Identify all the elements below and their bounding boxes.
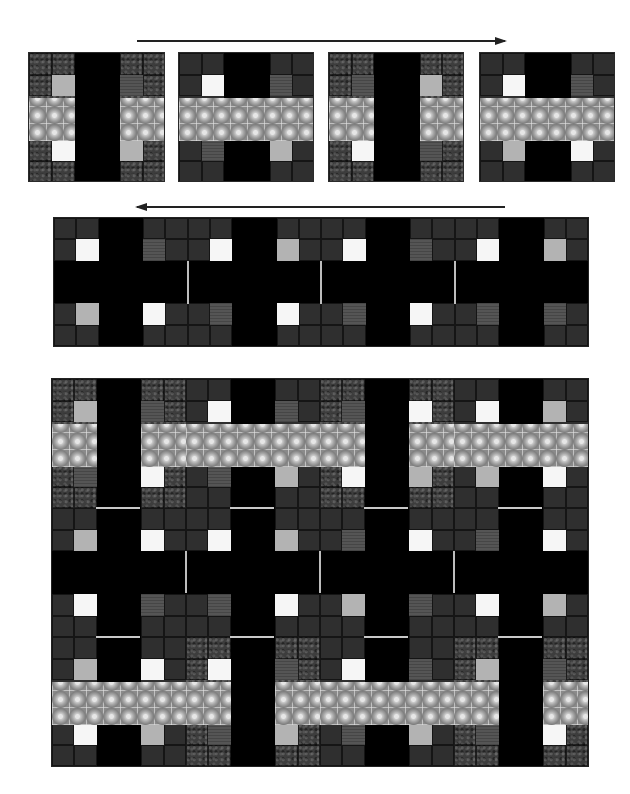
black-bar-top (231, 379, 276, 424)
band-left (454, 682, 499, 725)
corner-patch (188, 218, 210, 239)
corner-patch (454, 723, 476, 745)
arrow-left-icon (137, 206, 505, 208)
corner-patch (442, 75, 464, 97)
corner-patch (164, 508, 186, 530)
corner-patch (165, 218, 187, 239)
accent-square-white (409, 401, 431, 423)
accent-square-mid (141, 594, 163, 616)
accent-square-white (543, 465, 565, 487)
corner-patch (186, 487, 208, 509)
corner-patch (143, 140, 165, 162)
seam-line (454, 261, 456, 304)
corner-patch (320, 465, 342, 487)
sashing-strip (53, 217, 589, 347)
corner-patch (186, 745, 208, 767)
corner-patch (566, 218, 588, 239)
corner-patch (566, 303, 588, 324)
corner-patch (164, 379, 186, 401)
accent-square-white (141, 465, 163, 487)
corner-patch (432, 303, 454, 324)
corner-patch (410, 218, 432, 239)
corner-patch (208, 379, 230, 401)
corner-patch (342, 487, 364, 509)
corner-patch (186, 508, 208, 530)
corner-patch (544, 218, 566, 239)
corner-patch (52, 401, 74, 423)
corner-patch (74, 745, 96, 767)
black-bar-top (97, 637, 142, 682)
corner-patch (352, 53, 375, 75)
black-bar-bottom (224, 141, 269, 182)
corner-patch (543, 379, 565, 401)
corner-patch (298, 487, 320, 509)
quilt-block-type-a (328, 52, 464, 182)
corner-patch (52, 659, 74, 681)
corner-patch (164, 530, 186, 552)
accent-square-white (208, 530, 230, 552)
accent-square-mid (544, 303, 566, 324)
corner-patch (141, 637, 163, 659)
corner-patch (210, 218, 232, 239)
corner-patch (165, 239, 187, 260)
corner-patch (188, 239, 210, 260)
seam-line (96, 636, 140, 638)
corner-patch (321, 325, 343, 346)
corner-patch (543, 637, 565, 659)
corner-patch (52, 508, 74, 530)
accent-square-white (410, 303, 432, 324)
quilt-block-type-a (52, 379, 186, 508)
quilt-block-type-c (320, 508, 454, 637)
corner-patch (188, 303, 210, 324)
band-right (120, 98, 165, 142)
accent-square-white (74, 594, 96, 616)
accent-square-mid (141, 401, 163, 423)
accent-square-light (476, 465, 498, 487)
corner-patch (76, 325, 98, 346)
corner-patch (320, 401, 342, 423)
corner-patch (29, 53, 52, 75)
corner-patch (454, 508, 476, 530)
corner-patch (321, 218, 343, 239)
corner-patch (543, 745, 565, 767)
quilt-block-type-b (320, 637, 454, 766)
accent-square-white (141, 659, 163, 681)
black-bar-vertical (97, 379, 142, 508)
accent-square-white (52, 140, 75, 162)
corner-patch (164, 723, 186, 745)
quilt-block-type-b (186, 379, 320, 508)
corner-patch (143, 75, 165, 97)
accent-square-white (275, 594, 297, 616)
corner-patch (566, 508, 588, 530)
corner-patch (120, 53, 143, 75)
quilt-block-type-a (28, 52, 165, 182)
corner-patch (593, 75, 615, 97)
corner-patch (432, 218, 454, 239)
corner-patch (208, 487, 230, 509)
band-right (543, 682, 588, 725)
corner-patch (164, 594, 186, 616)
corner-patch (202, 53, 225, 75)
corner-patch (410, 325, 432, 346)
corner-patch (432, 239, 454, 260)
corner-patch (275, 616, 297, 638)
black-bar-top (525, 53, 570, 98)
corner-patch (566, 239, 588, 260)
accent-square-mid (571, 75, 594, 97)
accent-square-light (141, 723, 163, 745)
corner-patch (476, 379, 498, 401)
band-left (52, 424, 97, 467)
corner-patch (432, 508, 454, 530)
accent-square-white (277, 303, 299, 324)
corner-patch (208, 616, 230, 638)
accent-square-white (543, 530, 565, 552)
corner-patch (503, 161, 526, 182)
accent-square-mid (210, 303, 232, 324)
quilt-block-type-c (321, 218, 455, 346)
corner-patch (480, 140, 503, 162)
accent-square-white (503, 75, 526, 97)
seam-line (364, 636, 408, 638)
corner-patch (320, 508, 342, 530)
band-left (29, 98, 75, 142)
corner-patch (299, 303, 321, 324)
